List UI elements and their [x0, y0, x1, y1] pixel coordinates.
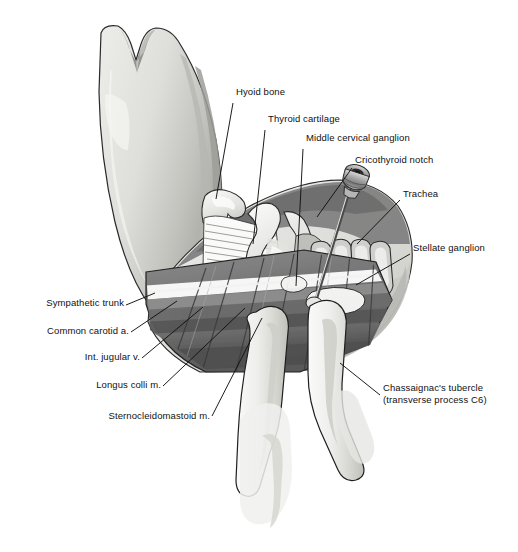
label-int-jugular-v: Int. jugular v. — [0, 351, 140, 363]
label-cricothyroid-notch: Cricothyroid notch — [355, 154, 433, 166]
label-common-carotid-a: Common carotid a. — [0, 325, 129, 337]
label-chassaignacs-tubercle-line1: Chassaignac's tubercle — [383, 382, 487, 394]
leader-hyoid-bone — [216, 103, 233, 199]
label-middle-cervical-ganglion: Middle cervical ganglion — [306, 132, 410, 144]
label-chassaignacs-tubercle: Chassaignac's tubercle (transverse proce… — [383, 382, 487, 405]
label-sternocleidomastoid-m: Sternocleidomastoid m. — [0, 410, 210, 422]
label-hyoid-bone: Hyoid bone — [236, 86, 285, 98]
middle-cervical-ganglion-shape — [281, 276, 307, 293]
label-thyroid-cartilage: Thyroid cartilage — [268, 113, 340, 125]
label-trachea: Trachea — [403, 188, 438, 200]
label-chassaignacs-tubercle-line2: (transverse process C6) — [383, 394, 487, 406]
label-stellate-ganglion: Stellate ganglion — [413, 242, 485, 254]
label-sympathetic-trunk: Sympathetic trunk — [0, 297, 124, 309]
leader-chassaignacs-tubercle — [340, 363, 380, 395]
illustration-canvas — [0, 0, 518, 552]
label-longus-colli-m: Longus colli m. — [0, 379, 161, 391]
anatomical-illustration-figure: Hyoid bone Thyroid cartilage Middle cerv… — [0, 0, 518, 552]
